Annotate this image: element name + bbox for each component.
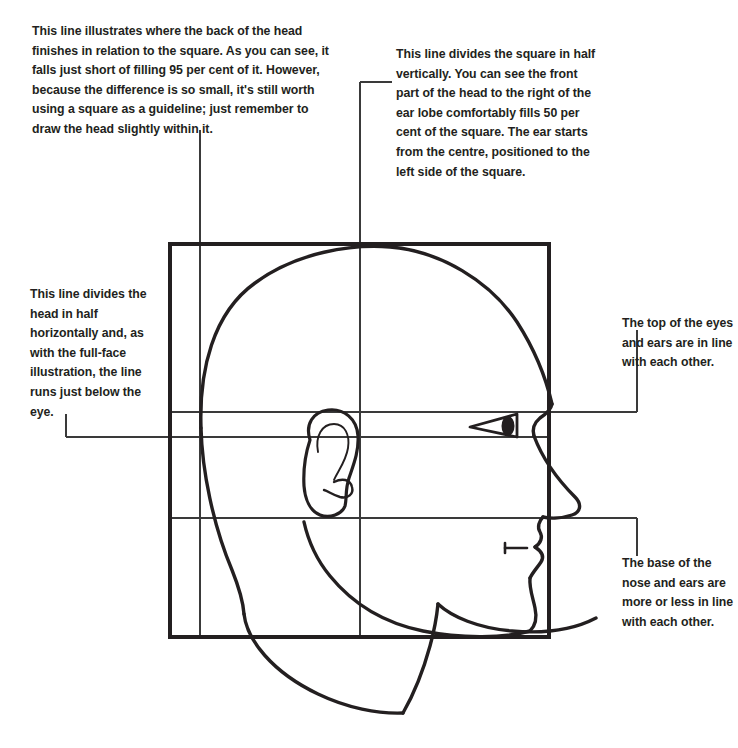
shoulder-line	[438, 604, 596, 632]
jaw-line	[304, 522, 530, 637]
neck-back	[244, 614, 403, 713]
ear	[304, 410, 358, 517]
illustration-page: This line illustrates where the back of …	[0, 0, 738, 748]
lips-profile	[530, 547, 543, 578]
upper-lip	[535, 517, 543, 547]
ear-antihelix	[317, 424, 348, 480]
chin-profile	[530, 578, 536, 631]
eye	[470, 414, 517, 437]
nose-ear-base-note: The base of the nose and ears are more o…	[622, 554, 734, 632]
nape-line	[201, 428, 244, 614]
eye-ear-top-note: The top of the eyes and ears are in line…	[622, 314, 734, 373]
neck-front	[403, 604, 438, 713]
nose-profile	[534, 436, 580, 518]
cranium-curve	[201, 246, 552, 428]
vertical-halves-note: This line divides the square in half ver…	[396, 45, 602, 182]
back-of-head-note: This line illustrates where the back of …	[32, 22, 332, 140]
head-profile-outline	[201, 246, 596, 713]
ear-outer-helix	[304, 410, 358, 517]
mouth-line	[505, 543, 527, 553]
horizontal-halves-note: This line divides the head in half horiz…	[30, 285, 158, 422]
eye-iris	[502, 416, 515, 436]
